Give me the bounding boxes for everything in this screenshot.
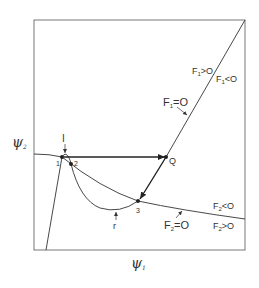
point-q-label: Q <box>169 156 176 166</box>
f1-positive-label: F1>O <box>192 66 213 79</box>
f1-negative-label: F1<O <box>216 74 237 87</box>
point-2-label: 2 <box>74 159 78 169</box>
x-axis-subscript: 1 <box>142 264 146 271</box>
point-2-marker <box>69 162 73 166</box>
phase-plane-diagram <box>0 0 259 288</box>
y-axis-subscript: 2 <box>23 143 27 150</box>
f2-pos-text: >O <box>222 221 234 231</box>
f1-pos-text: >O <box>201 66 213 76</box>
f1-neg-text: <O <box>225 74 237 84</box>
f2-neg-text: <O <box>222 201 234 211</box>
point-1-marker <box>60 155 64 159</box>
point-1-label: 1 <box>56 159 60 169</box>
x-axis-label: ψ1 <box>131 258 146 273</box>
f2-name: F <box>164 219 171 231</box>
f1-name: F <box>163 96 170 108</box>
point-q-marker <box>164 155 168 159</box>
f2-pointer-arrow <box>176 211 182 218</box>
annotation-r: r <box>113 221 116 231</box>
point-3-label: 3 <box>136 206 140 216</box>
f2-zero-text: =O <box>174 219 189 231</box>
f1-zero-text: =O <box>173 96 188 108</box>
y-axis-label: ψ2 <box>12 137 27 152</box>
y-axis-symbol: ψ <box>12 134 23 150</box>
return-arrow-q-to-3 <box>140 157 166 199</box>
f2-zero-label: F2=O <box>164 220 189 234</box>
point-3-marker <box>136 199 140 203</box>
f2-positive-label: F2>O <box>213 221 234 234</box>
f1-zero-label: F1=O <box>163 97 188 111</box>
x-axis-symbol: ψ <box>131 255 142 271</box>
f2-negative-label: F2<O <box>213 201 234 214</box>
annotation-i: I <box>62 134 65 144</box>
f1-nullcline <box>46 20 245 250</box>
